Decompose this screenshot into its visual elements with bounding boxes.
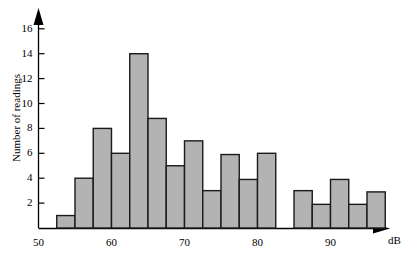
histogram-bar [166,166,184,228]
histogram-bar [57,216,75,228]
plot-area [0,0,409,266]
histogram-bar [367,192,385,228]
histogram-bar [93,128,111,228]
x-axis-title: dB [388,235,401,246]
histogram-bar [185,141,203,228]
x-tick-label-70: 70 [173,237,197,248]
histogram-bar [239,179,257,228]
histogram-bar [294,191,312,228]
histogram-bar [258,153,276,228]
histogram-bar [331,179,349,228]
y-axis [34,8,44,228]
histogram-bar [312,204,330,228]
x-tick-label-50: 50 [27,237,51,248]
x-tick-label-90: 90 [319,237,343,248]
y-tick-label-2: 2 [15,197,33,208]
x-tick-label-80: 80 [246,237,270,248]
histogram-bar [130,54,148,228]
y-tick-marks [39,29,45,203]
x-tick-label-60: 60 [100,237,124,248]
histogram-bar [148,118,166,228]
histogram-bar [75,178,93,228]
histogram-chart: 246810121416 5060708090 Number of readin… [0,0,409,266]
bars-group [57,54,386,228]
histogram-bar [221,155,239,228]
histogram-bar [112,153,130,228]
y-tick-label-16: 16 [15,23,33,34]
y-axis-title: Number of readings [10,58,22,178]
histogram-bar [203,191,221,228]
histogram-bar [349,204,367,228]
